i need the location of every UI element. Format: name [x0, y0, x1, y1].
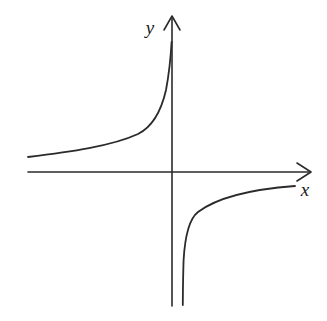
graph-canvas: y x — [0, 0, 327, 321]
y-axis-label: y — [144, 17, 155, 38]
hyperbola-figure: y x — [0, 0, 327, 321]
hyperbola-branch-upper-left — [28, 42, 172, 157]
x-axis-label: x — [300, 179, 310, 200]
hyperbola-branch-lower-right — [183, 186, 295, 305]
